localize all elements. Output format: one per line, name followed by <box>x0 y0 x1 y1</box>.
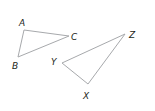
label-y: Y <box>51 57 58 67</box>
triangle-abc <box>18 30 69 57</box>
label-a: A <box>18 18 25 28</box>
label-c: C <box>71 32 78 42</box>
label-b: B <box>12 61 18 71</box>
label-z: Z <box>128 30 136 40</box>
label-x: X <box>82 91 90 101</box>
triangles-diagram: A B C Y Z X <box>0 0 155 111</box>
